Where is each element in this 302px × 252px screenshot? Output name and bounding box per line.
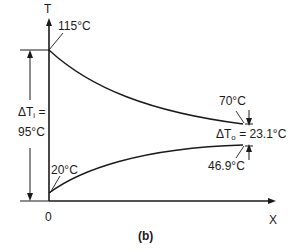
delta-ti-label: ΔTi = 95°C xyxy=(18,104,45,140)
delta-to-symbol: ΔT xyxy=(216,127,231,141)
hot-inlet-temp-label: 115°C xyxy=(58,20,91,33)
leader-46-9 xyxy=(236,146,244,158)
leader-115 xyxy=(49,33,63,50)
leader-70 xyxy=(236,111,244,123)
cold-outlet-temp-label: 46.9°C xyxy=(208,160,245,173)
delta-to-value: = 23.1°C xyxy=(236,127,287,141)
figure-caption: (b) xyxy=(138,230,153,243)
x-axis-label: X xyxy=(269,214,277,227)
leader-20 xyxy=(50,176,60,193)
y-axis-label: T xyxy=(44,3,51,16)
cold-inlet-temp-label: 20°C xyxy=(51,164,78,177)
origin-label: 0 xyxy=(45,211,52,224)
delta-ti-value: 95°C xyxy=(18,125,45,139)
hot-stream-curve xyxy=(49,50,243,124)
delta-ti-symbol: ΔT xyxy=(18,105,33,119)
hot-outlet-temp-label: 70°C xyxy=(219,95,246,108)
delta-to-label: ΔTo = 23.1°C xyxy=(216,128,286,144)
delta-ti-equals: = xyxy=(35,105,45,119)
